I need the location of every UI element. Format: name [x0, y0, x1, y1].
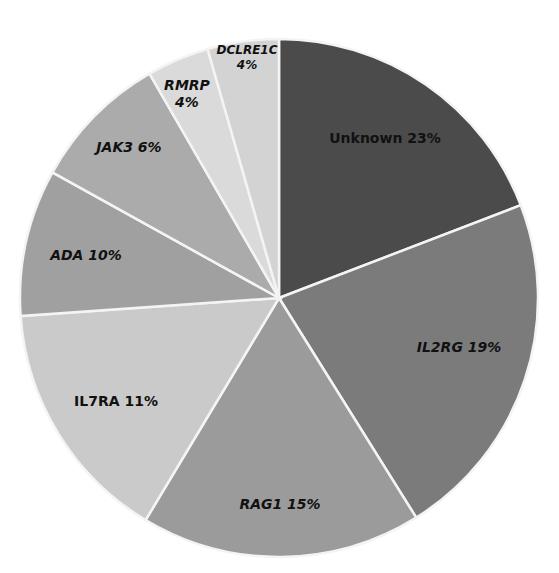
slice-label-rag1: RAG1 15%	[239, 496, 320, 512]
slice-label-line: ADA 10%	[49, 247, 122, 263]
slice-label-line: 4%	[174, 94, 199, 110]
slice-label-line: RAG1 15%	[239, 496, 320, 512]
pie-chart: Unknown 23%IL2RG 19%RAG1 15%IL7RA 11%ADA…	[0, 0, 559, 573]
slice-label-line: 4%	[236, 57, 257, 71]
slice-label-il2rg: IL2RG 19%	[417, 339, 502, 355]
slice-label-line: DCLRE1C	[216, 42, 277, 56]
slice-label-ada: ADA 10%	[49, 247, 122, 263]
slice-label-line: JAK3 6%	[93, 139, 161, 155]
slice-label-line: RMRP	[164, 77, 210, 93]
slice-label-il7ra: IL7RA 11%	[74, 393, 158, 409]
slice-label-jak3: JAK3 6%	[93, 139, 161, 155]
slice-label-line: IL2RG 19%	[417, 339, 502, 355]
slice-label-line: Unknown 23%	[329, 130, 441, 146]
slice-label-line: IL7RA 11%	[74, 393, 158, 409]
pie-slices	[20, 39, 538, 557]
slice-label-unknown: Unknown 23%	[329, 130, 441, 146]
